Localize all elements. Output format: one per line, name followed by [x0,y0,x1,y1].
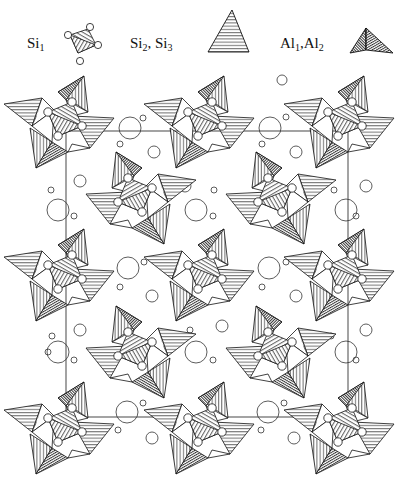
cation-circle [210,357,216,363]
si-al-pinwheel-motif [4,229,114,321]
legend-item-si1: Si1 [27,23,102,64]
legend-label-si23: Si2, Si3 [130,35,173,53]
cation-circle [290,290,302,302]
cation-circle [117,141,123,147]
cation-circle [257,401,279,423]
legend-item-al12: Al1,Al2 [280,28,393,53]
legend-item-si23: Si2, Si3 [130,10,249,53]
cation-circle [117,257,139,279]
cation-circle [45,349,51,355]
cation-circle [71,357,77,363]
cation-circle [259,141,265,147]
cation-circle [360,180,372,192]
cation-circle [74,324,86,336]
cation-circle [146,290,158,302]
si-al-pinwheel-motif [4,76,114,168]
si-al-pinwheel-motif [144,229,254,321]
si1-square-icon [64,23,101,64]
cation-circle [140,400,146,406]
cation-circle [259,284,265,290]
cation-circle [140,115,146,121]
si-al-pinwheel-motif [4,382,114,474]
si-al-pinwheel-motif [86,306,196,398]
cation-circle [360,324,372,336]
legend-label-si1: Si1 [27,35,45,53]
crystal-structure-diagram: Si1 Si2, Si3 Al1,Al2 [0,0,408,481]
cation-circle [210,213,216,219]
si-al-pinwheel-motif [284,229,394,321]
cation-circle [259,117,281,139]
cation-circle [335,341,357,363]
cation-circle [119,117,141,139]
cation-circle [283,114,289,120]
cation-circle [187,327,193,333]
cation-circle [185,341,207,363]
cation-circle [116,401,138,423]
si-al-pinwheel-motif [284,76,394,168]
cation-circle [258,427,264,433]
cation-circle [148,146,160,158]
framework-layer [4,76,394,474]
cation-circle [146,432,158,444]
cation-circle [281,400,287,406]
cation-circle [71,213,77,219]
cation-circle [115,427,121,433]
legend: Si1 Si2, Si3 Al1,Al2 [27,10,393,65]
cation-circle [74,175,86,187]
al12-tetrahedron-icon [350,28,393,53]
cation-circle [277,75,287,85]
cation-circle [216,320,228,332]
cation-circle [117,284,123,290]
si-al-pinwheel-motif [226,306,336,398]
cation-circle [331,187,337,193]
cation-circle [288,432,300,444]
cation-circle [290,146,302,158]
cation-circle [48,187,54,193]
cation-circle [49,333,55,339]
cation-circle [211,187,217,193]
cation-circle [185,199,207,221]
cation-circle [141,259,147,265]
cation-circle [258,257,280,279]
legend-label-al12: Al1,Al2 [280,35,324,53]
si23-triangle-icon [208,10,249,52]
si-al-pinwheel-motif [144,76,254,168]
